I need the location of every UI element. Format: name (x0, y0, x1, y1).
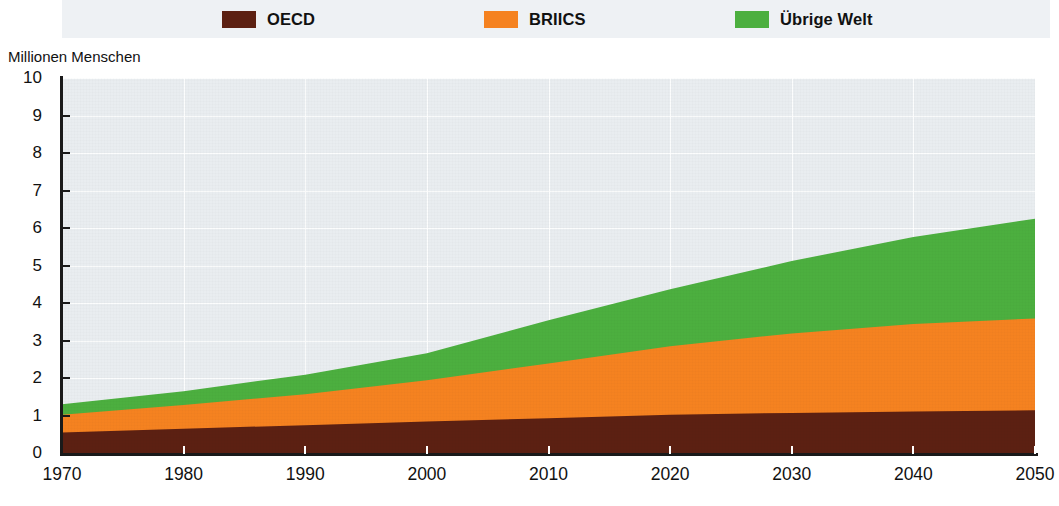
x-tick-label: 2040 (878, 464, 948, 485)
x-tick-mark (1034, 446, 1036, 454)
stacked-area-series (62, 78, 1035, 453)
legend-swatch-oecd (222, 11, 256, 28)
x-tick-label: 2030 (757, 464, 827, 485)
x-tick-label: 1980 (149, 464, 219, 485)
x-tick-mark (426, 446, 428, 454)
y-tick-label: 9 (2, 107, 42, 124)
legend-swatch-briics (484, 11, 518, 28)
plot-area (62, 78, 1035, 453)
x-tick-mark (669, 446, 671, 454)
y-tick-label: 3 (2, 332, 42, 349)
y-tick-label: 0 (2, 444, 42, 461)
y-tick-mark (62, 415, 70, 417)
legend-label-oecd: OECD (267, 10, 315, 29)
y-tick-mark (62, 152, 70, 154)
x-tick-mark (183, 446, 185, 454)
legend-label-uebrige-welt: Übrige Welt (780, 10, 872, 29)
gridline-vertical (1035, 78, 1036, 453)
legend-item-oecd[interactable]: OECD (222, 10, 315, 29)
y-tick-mark (62, 265, 70, 267)
y-tick-label: 5 (2, 257, 42, 274)
chart-legend: OECD BRIICS Übrige Welt (0, 0, 1050, 38)
x-tick-mark (791, 446, 793, 454)
y-tick-label: 10 (2, 69, 42, 86)
y-tick-mark (62, 115, 70, 117)
y-tick-mark (62, 302, 70, 304)
x-tick-label: 2000 (392, 464, 462, 485)
y-tick-mark (62, 190, 70, 192)
x-tick-label: 1970 (27, 464, 97, 485)
x-tick-label: 2020 (635, 464, 705, 485)
legend-label-briics: BRIICS (529, 10, 586, 29)
y-tick-mark (62, 340, 70, 342)
y-tick-mark (62, 377, 70, 379)
legend-swatch-uebrige-welt (735, 11, 769, 28)
y-axis-title: Millionen Menschen (8, 48, 141, 65)
y-tick-label: 6 (2, 219, 42, 236)
x-tick-mark (912, 446, 914, 454)
y-tick-label: 7 (2, 182, 42, 199)
x-tick-label: 1990 (270, 464, 340, 485)
legend-item-uebrige-welt[interactable]: Übrige Welt (735, 10, 872, 29)
x-tick-mark (304, 446, 306, 454)
x-tick-label: 2010 (514, 464, 584, 485)
y-tick-label: 4 (2, 294, 42, 311)
x-tick-label: 2050 (1000, 464, 1059, 485)
y-tick-label: 1 (2, 407, 42, 424)
y-tick-label: 2 (2, 369, 42, 386)
y-tick-mark (62, 227, 70, 229)
legend-item-briics[interactable]: BRIICS (484, 10, 586, 29)
x-tick-mark (548, 446, 550, 454)
y-tick-label: 8 (2, 144, 42, 161)
